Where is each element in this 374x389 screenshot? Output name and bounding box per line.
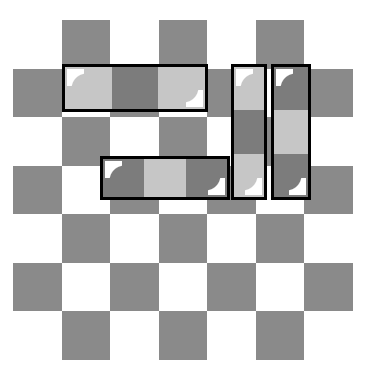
board-cell-r5-c0[interactable] — [13, 263, 62, 312]
gloss-highlight-icon — [208, 178, 225, 195]
gloss-highlight-icon — [245, 178, 262, 195]
board-cell-r4-c1[interactable] — [62, 214, 111, 263]
horizontal-tromino-top-left-segment-2 — [158, 67, 205, 109]
gloss-highlight-icon — [276, 69, 293, 86]
board-cell-r4-c5[interactable] — [256, 214, 305, 263]
vertical-tromino-right-inner[interactable] — [231, 64, 267, 200]
puzzle-scene — [0, 0, 374, 389]
board-cell-r5-c3[interactable] — [159, 263, 208, 312]
board-cell-r1-c6[interactable] — [304, 69, 353, 118]
board-cell-r2-c6[interactable] — [304, 117, 353, 166]
board-cell-r0-c5[interactable] — [256, 20, 305, 69]
horizontal-tromino-top-left-segment-1 — [112, 67, 159, 109]
board-cell-r5-c6[interactable] — [304, 263, 353, 312]
board-cell-r5-c1[interactable] — [62, 263, 111, 312]
board-cell-r6-c4[interactable] — [207, 311, 256, 360]
horizontal-tromino-middle[interactable] — [100, 156, 230, 200]
board-cell-r5-c4[interactable] — [207, 263, 256, 312]
gloss-highlight-icon — [67, 69, 84, 86]
gloss-highlight-icon — [236, 69, 253, 86]
board-cell-r4-c2[interactable] — [110, 214, 159, 263]
board-cell-r0-c4[interactable] — [207, 20, 256, 69]
vertical-tromino-right-inner-segment-0 — [234, 67, 264, 110]
board-cell-r4-c6[interactable] — [304, 214, 353, 263]
horizontal-tromino-top-left[interactable] — [62, 64, 208, 112]
horizontal-tromino-top-left-segment-0 — [65, 67, 112, 109]
board-cell-r2-c0[interactable] — [13, 117, 62, 166]
board-cell-r4-c3[interactable] — [159, 214, 208, 263]
vertical-tromino-right-inner-segment-2 — [234, 154, 264, 197]
board-cell-r4-c0[interactable] — [13, 214, 62, 263]
board-cell-r0-c6[interactable] — [304, 20, 353, 69]
horizontal-tromino-middle-segment-0 — [103, 159, 144, 197]
vertical-tromino-right-outer-segment-2 — [274, 154, 308, 197]
board-cell-r5-c2[interactable] — [110, 263, 159, 312]
horizontal-tromino-middle-segment-2 — [186, 159, 227, 197]
vertical-tromino-right-outer[interactable] — [271, 64, 311, 200]
board-cell-r4-c4[interactable] — [207, 214, 256, 263]
gloss-highlight-icon — [186, 90, 203, 107]
board-cell-r0-c2[interactable] — [110, 20, 159, 69]
board-cell-r1-c0[interactable] — [13, 69, 62, 118]
gloss-highlight-icon — [289, 178, 306, 195]
board-cell-r6-c0[interactable] — [13, 311, 62, 360]
board-cell-r5-c5[interactable] — [256, 263, 305, 312]
board-cell-r6-c1[interactable] — [62, 311, 111, 360]
board-cell-r6-c3[interactable] — [159, 311, 208, 360]
board-cell-r6-c2[interactable] — [110, 311, 159, 360]
board-cell-r0-c1[interactable] — [62, 20, 111, 69]
board-cell-r6-c6[interactable] — [304, 311, 353, 360]
board-cell-r0-c3[interactable] — [159, 20, 208, 69]
horizontal-tromino-middle-segment-1 — [144, 159, 185, 197]
board-cell-r3-c0[interactable] — [13, 166, 62, 215]
vertical-tromino-right-outer-segment-1 — [274, 110, 308, 153]
board-cell-r0-c0[interactable] — [13, 20, 62, 69]
vertical-tromino-right-outer-segment-0 — [274, 67, 308, 110]
board-cell-r3-c6[interactable] — [304, 166, 353, 215]
gloss-highlight-icon — [105, 161, 122, 178]
vertical-tromino-right-inner-segment-1 — [234, 110, 264, 153]
board-cell-r6-c5[interactable] — [256, 311, 305, 360]
